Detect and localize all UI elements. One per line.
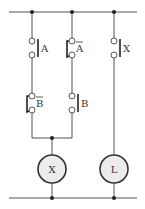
coil-l-label: L [111,164,118,175]
contact-x-label: X [123,43,131,54]
contact-a-bar-label: A [75,43,84,54]
contact-a-bar: A [67,38,84,58]
contact-b-bar: B [27,93,43,113]
coil-x-label: X [48,164,56,175]
coil-l: L [100,155,128,183]
contact-b-label: B [81,98,88,109]
contact-b: B [69,93,88,113]
junction-dot [50,196,54,200]
contact-a: A [29,38,49,58]
contact-a-label: A [40,43,49,54]
contact-b-bar-label: B [36,98,43,109]
junction-dot [50,136,54,140]
junction-dot [112,196,116,200]
junction-dot [70,10,74,14]
contact-x: X [111,38,131,58]
coil-x: X [38,155,66,183]
junction-dot [30,10,34,14]
ladder-diagram: A A X B B X L [0,0,145,209]
junction-dot [112,10,116,14]
